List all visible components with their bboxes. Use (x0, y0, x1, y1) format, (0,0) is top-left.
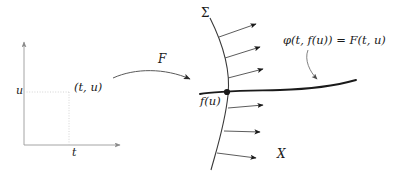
base-point-label: f(u) (200, 96, 221, 108)
figure-canvas (0, 0, 405, 178)
vector-arrow (228, 69, 263, 78)
domain-guide-lines (24, 92, 69, 145)
domain-point-label: (t, u) (74, 82, 102, 94)
orbit-equation-label: φ(t, f(u)) = F(t, u) (283, 35, 386, 47)
equation-leader-line (307, 50, 317, 79)
vector-arrow (228, 105, 263, 108)
base-point-dot (224, 89, 230, 95)
orbit-curve-group (200, 80, 356, 95)
vector-arrow (217, 153, 256, 158)
vector-field-label: X (277, 148, 286, 160)
map-arrow-F (113, 71, 190, 79)
domain-axes (24, 42, 120, 145)
math-figure: u t (t, u) F Σ f(u) X φ(t, f(u)) = F(t, … (0, 0, 405, 178)
equation-leader-group (307, 50, 317, 79)
x-axis-label: t (72, 147, 76, 158)
vector-arrow (224, 131, 260, 132)
vector-arrow (225, 47, 260, 58)
vector-arrow (219, 24, 256, 37)
map-arrow-group (113, 71, 190, 79)
sigma-curve-label: Σ (201, 7, 209, 19)
orbit-curve (200, 80, 356, 94)
map-arrow-label: F (158, 53, 166, 65)
y-axis-label: u (16, 85, 23, 96)
